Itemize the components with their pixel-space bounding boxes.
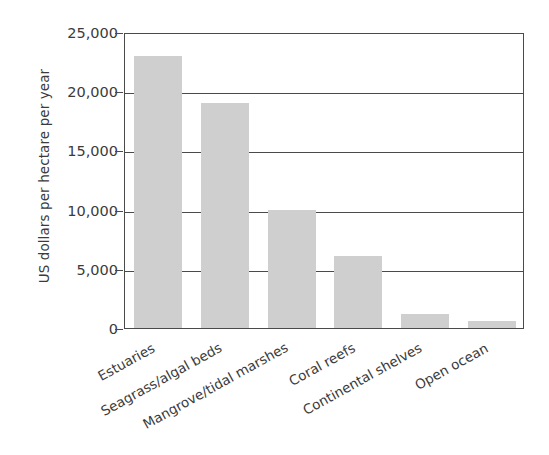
bar-chart-figure: US dollars per hectare per year 05,00010… [0,0,549,455]
x-axis-category-labels: EstuariesSeagrass/algal bedsMangrove/tid… [0,0,549,455]
x-axis-label: Open ocean [412,339,491,392]
x-axis-label: Continental shelves [300,339,424,418]
